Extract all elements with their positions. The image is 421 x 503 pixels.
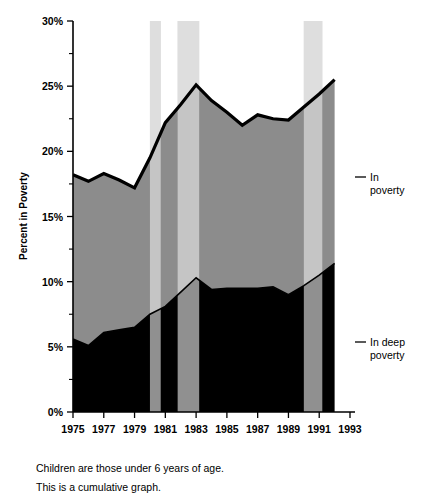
poverty-chart-figure: 0%5%10%15%20%25%30% 19751977197919811983… xyxy=(0,0,421,503)
y-tick-label-15%: 15% xyxy=(42,211,64,223)
x-tick-label-1993: 1993 xyxy=(338,423,362,435)
x-tick-label-1979: 1979 xyxy=(123,423,147,435)
y-tick-label-10%: 10% xyxy=(42,276,64,288)
y-tick-label-20%: 20% xyxy=(42,145,64,157)
y-tick-label-5%: 5% xyxy=(48,341,64,353)
y-axis-tick-layer: 0%5%10%15%20%25%30% xyxy=(42,15,73,418)
x-tick-label-1991: 1991 xyxy=(308,423,332,435)
caption-line-1: Children are those under 6 years of age. xyxy=(36,462,224,474)
in-deep-poverty-legend-label-line1: In deep xyxy=(370,336,405,348)
recession-band-overlay-0 xyxy=(150,21,161,412)
x-axis-tick-layer: 1975197719791981198319851987198919911993 xyxy=(61,412,362,435)
x-tick-label-1981: 1981 xyxy=(154,423,178,435)
in-poverty-legend-label-line2: poverty xyxy=(370,184,405,196)
recession-band-overlay-2 xyxy=(304,21,322,412)
y-tick-label-25%: 25% xyxy=(42,80,64,92)
x-tick-label-1983: 1983 xyxy=(184,423,208,435)
x-tick-label-1985: 1985 xyxy=(215,423,239,435)
x-tick-label-1975: 1975 xyxy=(61,423,85,435)
x-tick-label-1977: 1977 xyxy=(92,423,116,435)
y-axis-title: Percent in Poverty xyxy=(18,172,29,260)
x-tick-label-1989: 1989 xyxy=(277,423,301,435)
in-poverty-legend-label-line1: In xyxy=(370,171,379,183)
caption-line-2: This is a cumulative graph. xyxy=(36,481,161,493)
x-tick-label-1987: 1987 xyxy=(246,423,270,435)
chart-canvas: 0%5%10%15%20%25%30% 19751977197919811983… xyxy=(0,0,421,503)
y-tick-label-30%: 30% xyxy=(42,15,64,27)
recession-band-overlay-1 xyxy=(178,21,200,412)
y-tick-label-0%: 0% xyxy=(48,406,64,418)
in-deep-poverty-legend-label-line2: poverty xyxy=(370,349,405,361)
